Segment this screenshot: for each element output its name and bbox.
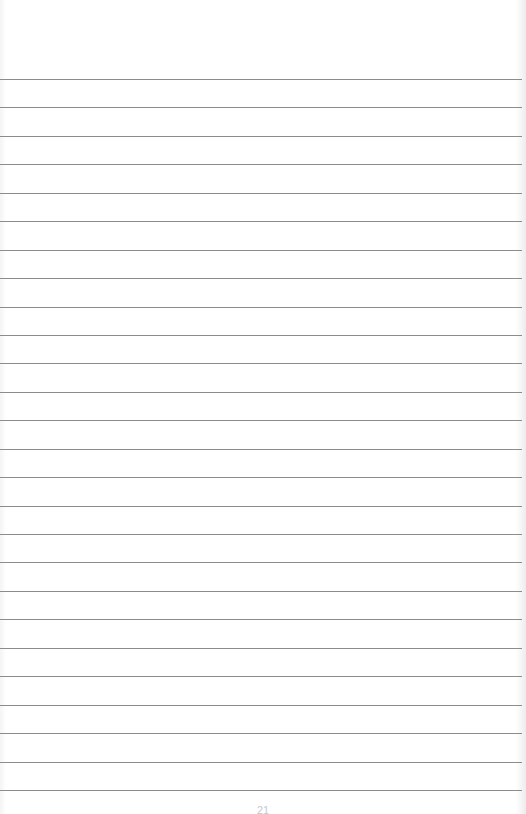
ruled-line [0,136,522,137]
ruled-line [0,107,522,108]
ruled-line [0,79,522,80]
ruled-line [0,705,522,706]
ruled-line [0,193,522,194]
ruled-line [0,790,522,791]
ruled-line [0,420,522,421]
ruled-line [0,591,522,592]
ruled-line [0,619,522,620]
ruled-line [0,762,522,763]
ruled-line [0,676,522,677]
ruled-line [0,733,522,734]
ruled-line [0,221,522,222]
ruled-line [0,392,522,393]
lined-paper-page: 21 [0,0,526,814]
ruled-line [0,335,522,336]
ruled-line [0,562,522,563]
page-number: 21 [0,804,526,814]
ruled-line [0,534,522,535]
ruled-line [0,648,522,649]
ruled-line [0,506,522,507]
ruled-line [0,164,522,165]
ruled-line [0,250,522,251]
ruled-line [0,363,522,364]
ruled-line [0,477,522,478]
ruled-line [0,449,522,450]
ruled-line [0,278,522,279]
ruled-line [0,307,522,308]
